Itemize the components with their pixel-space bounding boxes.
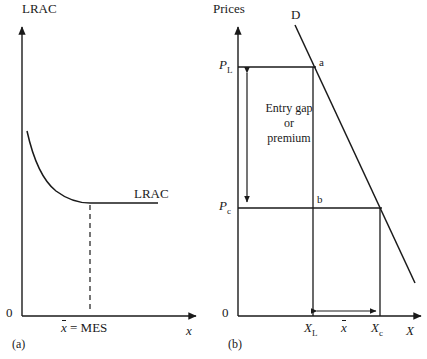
panel-a-y-axis-label: LRAC xyxy=(22,2,57,15)
panel-b-origin-label: 0 xyxy=(222,306,229,319)
panel-b-x-low-subscript: L xyxy=(312,328,318,338)
economics-figure: LRAC 0 x LRAC x = MES (a) Prices 0 X D P… xyxy=(0,0,427,359)
panel-b-xbar-tick-label: x xyxy=(341,321,347,334)
panel-b-x-axis-label: X xyxy=(406,324,414,337)
panel-a-origin-label: 0 xyxy=(6,306,13,319)
panel-a-mes-tick-rest: = MES xyxy=(67,320,108,335)
panel-b-xbar-symbol: x xyxy=(341,320,347,335)
panel-b-x-low-tick-label: XL xyxy=(304,321,317,338)
panel-b-x-high-subscript: c xyxy=(379,328,383,338)
panel-a-lrac-curve-label: LRAC xyxy=(134,187,169,200)
panel-b-price-low-label: Pc xyxy=(219,199,231,216)
panel-b-price-high-symbol: P xyxy=(219,57,227,72)
panel-b-point-a-label: a xyxy=(319,57,324,68)
panel-b-caption: (b) xyxy=(228,338,242,350)
panel-b-x-high-tick-label: Xc xyxy=(371,321,383,338)
panel-a-mes-tick-label: x = MES xyxy=(61,321,107,334)
panel-b-x-high-symbol: X xyxy=(371,320,379,335)
panel-b-entry-gap-annotation: Entry gap or premium xyxy=(244,101,334,146)
panel-b-axes xyxy=(238,27,421,316)
panel-a-axes xyxy=(22,27,196,316)
panel-a-mes-xbar-symbol: x xyxy=(61,320,67,335)
panel-b-price-low-subscript: c xyxy=(227,206,231,216)
figure-vector-layer xyxy=(0,0,427,359)
panel-b-point-b-label: b xyxy=(317,194,323,205)
panel-b-price-high-label: PL xyxy=(219,58,232,75)
panel-b-x-low-symbol: X xyxy=(304,320,312,335)
panel-b-y-axis-label: Prices xyxy=(213,2,245,15)
entry-gap-line-2: or xyxy=(244,116,334,131)
panel-b-price-low-symbol: P xyxy=(219,198,227,213)
panel-b-demand-curve-label: D xyxy=(291,8,300,21)
panel-a-x-axis-label: x xyxy=(186,324,192,337)
entry-gap-line-3: premium xyxy=(244,131,334,146)
entry-gap-line-1: Entry gap xyxy=(244,101,334,116)
panel-b-price-high-subscript: L xyxy=(227,65,233,75)
panel-a-caption: (a) xyxy=(12,338,25,350)
